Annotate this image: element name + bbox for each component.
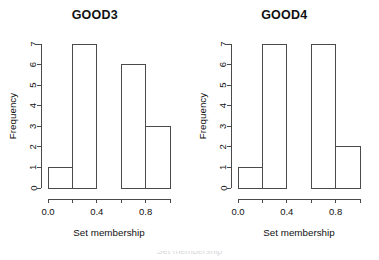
histogram-bar: [72, 44, 96, 188]
histogram-bar: [238, 167, 262, 188]
x-axis-tick-label: 0.4: [280, 206, 293, 217]
y-axis-tick-label: 7: [28, 41, 39, 46]
y-axis-tick-label: 5: [28, 82, 39, 87]
histogram-bar: [311, 44, 335, 188]
y-axis-tick-label: 1: [217, 165, 228, 170]
panel-good3: GOOD3 012345670.00.40.8Set membershipFre…: [0, 0, 190, 260]
x-axis-tick-label: 0.8: [328, 206, 341, 217]
x-axis-title: Set membership: [73, 227, 145, 238]
y-axis-tick-label: 2: [28, 144, 39, 149]
x-axis-tick-label: 0.8: [139, 206, 152, 217]
y-axis-tick-label: 3: [217, 124, 228, 129]
histogram-bar: [121, 65, 145, 188]
y-axis-tick-label: 7: [217, 41, 228, 46]
y-axis-title: Frequency: [7, 93, 18, 139]
y-axis-tick-label: 6: [217, 62, 228, 67]
chart-good3: 012345670.00.40.8Set membershipFrequency: [0, 0, 190, 260]
histogram-bar: [48, 167, 72, 188]
x-axis-tick-label: 0.0: [231, 206, 244, 217]
panel-good4: GOOD4 012345670.00.40.8Set membershipFre…: [190, 0, 379, 260]
y-axis-tick-label: 4: [28, 103, 39, 108]
y-axis-tick-label: 2: [217, 144, 228, 149]
x-axis-tick-label: 0.0: [41, 206, 54, 217]
y-axis-tick-label: 6: [28, 62, 39, 67]
chart-good4: 012345670.00.40.8Set membershipFrequency: [190, 0, 379, 260]
histogram-bar: [335, 147, 359, 188]
histogram-bar: [146, 126, 170, 188]
y-axis-tick-label: 0: [28, 185, 39, 190]
y-axis-tick-label: 0: [217, 185, 228, 190]
y-axis-tick-label: 3: [28, 124, 39, 129]
x-axis-tick-label: 0.4: [90, 206, 103, 217]
x-axis-title: Set membership: [263, 227, 335, 238]
y-axis-tick-label: 4: [217, 103, 228, 108]
y-axis-tick-label: 5: [217, 82, 228, 87]
histogram-figure: GOOD3 012345670.00.40.8Set membershipFre…: [0, 0, 379, 260]
histogram-bar: [262, 44, 286, 188]
y-axis-tick-label: 1: [28, 165, 39, 170]
y-axis-title: Frequency: [197, 93, 208, 139]
